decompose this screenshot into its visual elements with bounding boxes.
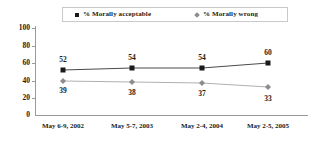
value-label-wrong-2: 37 <box>190 90 214 98</box>
y-axis-line <box>35 26 36 116</box>
value-label-acceptable-0: 52 <box>51 56 75 64</box>
series-line-morally-acceptable <box>63 63 268 70</box>
value-label-wrong-1: 38 <box>120 89 144 97</box>
value-label-wrong-3: 33 <box>256 95 280 103</box>
data-point-acceptable-3 <box>266 61 271 66</box>
data-point-wrong-3 <box>265 84 271 90</box>
y-tick-label-0: 0 <box>4 111 30 119</box>
y-tick-80: 80 <box>0 42 30 50</box>
legend-label-morally-acceptable: % Morally acceptable <box>83 8 151 21</box>
data-point-wrong-1 <box>129 79 135 85</box>
legend-item-morally-acceptable: % Morally acceptable <box>75 8 151 21</box>
x-axis-line <box>35 115 308 116</box>
y-tick-mark-100 <box>32 28 36 29</box>
square-marker-icon <box>75 13 79 17</box>
y-tick-100: 100 <box>0 24 30 32</box>
y-tick-mark-40 <box>32 81 36 82</box>
value-label-acceptable-1: 54 <box>120 54 144 62</box>
x-axis-label-3: May 2-5, 2005 <box>228 122 308 131</box>
x-axis-label-0: May 6-9, 2002 <box>23 122 103 131</box>
data-point-wrong-0 <box>60 78 66 84</box>
chart-legend: % Morally acceptable % Morally wrong <box>62 7 288 22</box>
y-tick-label-80: 80 <box>4 42 30 50</box>
data-point-acceptable-0 <box>61 68 66 73</box>
y-tick-label-20: 20 <box>4 94 30 102</box>
legend-item-morally-wrong: % Morally wrong <box>195 8 258 21</box>
value-label-wrong-0: 39 <box>51 87 75 95</box>
y-tick-label-100: 100 <box>4 24 30 32</box>
y-tick-20: 20 <box>0 94 30 102</box>
y-tick-0: 0 <box>0 111 30 119</box>
y-tick-mark-20 <box>32 98 36 99</box>
x-axis-label-1: May 5-7, 2003 <box>92 122 172 131</box>
y-tick-label-60: 60 <box>4 59 30 67</box>
value-label-acceptable-2: 54 <box>190 54 214 62</box>
y-tick-mark-60 <box>32 63 36 64</box>
value-label-acceptable-3: 60 <box>256 49 280 57</box>
series-line-morally-wrong <box>63 81 268 87</box>
y-tick-40: 40 <box>0 77 30 85</box>
line-chart: % Morally acceptable % Morally wrong 100… <box>0 0 313 144</box>
data-point-wrong-2 <box>199 80 205 86</box>
legend-label-morally-wrong: % Morally wrong <box>203 8 258 21</box>
y-tick-mark-80 <box>32 46 36 47</box>
y-tick-label-40: 40 <box>4 77 30 85</box>
data-point-acceptable-2 <box>200 66 205 71</box>
y-tick-60: 60 <box>0 59 30 67</box>
diamond-marker-icon <box>194 12 200 18</box>
data-point-acceptable-1 <box>130 66 135 71</box>
